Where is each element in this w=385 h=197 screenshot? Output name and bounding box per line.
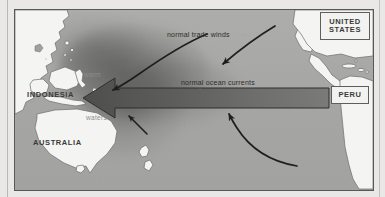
upwelling-arrow-south bbox=[211, 108, 321, 178]
label-normal-ocean-currents: normal ocean currents bbox=[181, 79, 255, 86]
label-peru: PERU bbox=[338, 91, 361, 99]
label-warm: warm bbox=[84, 71, 101, 78]
label-normal-trade-winds: normal trade winds bbox=[167, 31, 230, 38]
label-united-states-line2: STATES bbox=[329, 26, 361, 34]
callout-united-states: UNITED STATES bbox=[320, 12, 370, 40]
label-australia: AUSTRALIA bbox=[33, 138, 82, 147]
callout-peru: PERU bbox=[331, 86, 369, 104]
pacific-ocean-map: INDONESIA AUSTRALIA warm waters normal t… bbox=[14, 9, 374, 191]
figure-root: INDONESIA AUSTRALIA warm waters normal t… bbox=[0, 0, 385, 197]
page-margin-rule-left bbox=[7, 0, 8, 197]
warm-water-arrow-indonesia bbox=[107, 102, 157, 142]
page-margin-rule-right bbox=[379, 0, 380, 197]
label-waters: waters bbox=[86, 114, 107, 121]
label-indonesia: INDONESIA bbox=[27, 90, 74, 99]
